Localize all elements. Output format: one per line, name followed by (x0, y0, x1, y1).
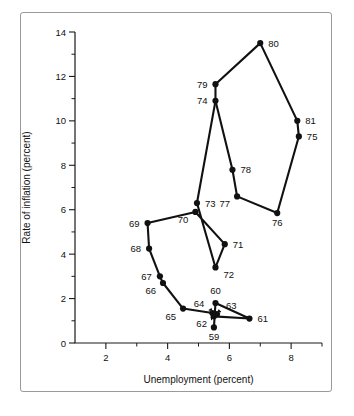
data-point-label: 80 (268, 38, 279, 49)
data-point-marker (144, 220, 150, 226)
data-point-label: 70 (178, 214, 189, 225)
data-point-label: 74 (197, 95, 208, 106)
data-point-marker (257, 40, 263, 46)
data-point-marker (180, 305, 186, 311)
data-point-label: 75 (307, 131, 318, 142)
data-point-label: 66 (145, 285, 156, 296)
data-point-label: 64 (194, 298, 205, 309)
data-point-marker (246, 315, 252, 321)
data-point-label: 71 (233, 239, 244, 250)
data-point-marker (212, 98, 218, 104)
data-point-marker (157, 273, 163, 279)
data-point-label: 62 (196, 318, 207, 329)
data-point-label: 76 (272, 217, 283, 228)
data-point-label: 72 (223, 269, 234, 280)
data-point-label: 73 (205, 198, 216, 209)
data-point-label: 61 (257, 313, 268, 324)
data-point-label: 69 (129, 218, 140, 229)
y-axis-tick-label: 6 (61, 204, 66, 215)
data-point-marker (209, 310, 215, 316)
data-point-label: 81 (305, 115, 316, 126)
x-axis-tick-label: 6 (227, 352, 232, 363)
y-axis-tick-label: 12 (55, 71, 66, 82)
y-axis-tick-label: 8 (61, 160, 66, 171)
data-point-marker (146, 245, 152, 251)
x-axis-tick-label: 2 (103, 352, 108, 363)
data-point-marker (294, 118, 300, 124)
data-point-marker (160, 280, 166, 286)
data-point-label: 77 (220, 198, 231, 209)
data-point-label: 63 (226, 300, 237, 311)
data-point-marker (212, 264, 218, 270)
y-axis-tick-label: 0 (61, 338, 66, 349)
series-line (215, 43, 297, 121)
data-point-marker (212, 81, 218, 87)
scatter-chart: 024681012142468Unemployment (percent)Rat… (0, 0, 354, 416)
data-point-marker (296, 133, 302, 139)
y-axis-tick-label: 2 (61, 293, 66, 304)
data-point-label: 78 (240, 164, 251, 175)
y-axis-tick-label: 4 (61, 249, 66, 260)
data-point-marker (222, 241, 228, 247)
series-line (215, 101, 298, 213)
y-axis-tick-label: 14 (55, 27, 66, 38)
data-point-marker (212, 300, 218, 306)
data-point-marker (274, 210, 280, 216)
series-line (148, 101, 250, 328)
x-axis-tick-label: 8 (288, 352, 293, 363)
x-axis-tick-label: 4 (165, 352, 170, 363)
data-point-label: 60 (210, 285, 221, 296)
data-point-marker (194, 200, 200, 206)
data-point-label: 67 (141, 271, 152, 282)
data-point-marker (192, 209, 198, 215)
data-point-marker (229, 167, 235, 173)
y-axis-title: Rate of inflation (percent) (21, 131, 32, 243)
data-point-label: 79 (197, 79, 208, 90)
x-axis-title: Unemployment (percent) (143, 374, 253, 385)
data-point-label: 65 (165, 311, 176, 322)
data-point-label: 68 (131, 243, 142, 254)
data-point-marker (211, 324, 217, 330)
data-point-label: 59 (209, 331, 220, 342)
y-axis-tick-label: 10 (55, 115, 66, 126)
data-point-marker (234, 193, 240, 199)
phillips-curve-figure: 024681012142468Unemployment (percent)Rat… (0, 0, 354, 416)
